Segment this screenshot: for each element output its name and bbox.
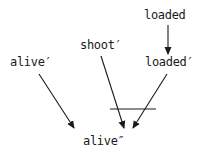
edge-shoot-prime-to-alive-double-prime [101, 56, 124, 128]
diagram-canvas: loaded loaded′ shoot′ alive′ alive″ [0, 0, 198, 152]
node-shoot-prime: shoot′ [80, 39, 122, 51]
node-alive-prime: alive′ [10, 56, 52, 68]
edges-layer [0, 0, 198, 152]
node-alive-double-prime: alive″ [83, 135, 125, 147]
edge-loaded-prime-to-alive-double-prime [133, 74, 167, 128]
node-loaded-prime: loaded′ [145, 56, 193, 68]
edge-alive-prime-to-alive-double-prime [39, 74, 74, 128]
node-loaded: loaded [144, 9, 186, 21]
